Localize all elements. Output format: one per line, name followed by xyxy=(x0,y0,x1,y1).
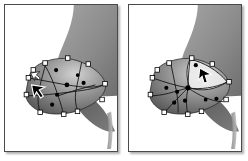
mesh-node-icon[interactable] xyxy=(164,86,168,90)
before-panel[interactable]: before-edit xyxy=(4,4,118,152)
after-panel[interactable]: after-edit xyxy=(128,4,242,152)
mesh-anchor-point-icon[interactable] xyxy=(210,62,215,67)
mesh-node-icon[interactable] xyxy=(55,93,59,97)
mesh-anchor-point-icon[interactable] xyxy=(148,92,153,97)
mesh-node-icon[interactable] xyxy=(65,83,70,88)
mesh-anchor-point-icon[interactable] xyxy=(150,76,155,81)
mesh-node-icon[interactable] xyxy=(50,103,54,107)
mesh-anchor-point-icon[interactable] xyxy=(199,109,204,114)
before-panel-artwork[interactable] xyxy=(5,5,117,151)
mesh-anchor-point-icon[interactable] xyxy=(43,61,48,66)
mesh-anchor-point-icon[interactable] xyxy=(38,110,43,115)
figure-stage: before-edit xyxy=(0,0,248,161)
mesh-anchor-point-icon[interactable] xyxy=(103,81,108,86)
mesh-anchor-point-icon[interactable] xyxy=(189,56,194,61)
mesh-node-icon[interactable] xyxy=(76,73,80,77)
mesh-anchor-point-icon[interactable] xyxy=(31,68,36,73)
mesh-node-icon[interactable] xyxy=(183,99,187,103)
mesh-anchor-point-icon[interactable] xyxy=(86,62,91,67)
after-panel-artwork[interactable] xyxy=(129,5,241,151)
mesh-node-icon[interactable] xyxy=(204,98,208,102)
mesh-node-icon[interactable] xyxy=(172,101,176,105)
mesh-node-icon[interactable] xyxy=(54,68,58,72)
mesh-anchor-point-icon[interactable] xyxy=(227,79,232,84)
mesh-anchor-point-icon[interactable] xyxy=(155,68,160,73)
mesh-node-icon[interactable] xyxy=(175,90,179,94)
mesh-node-icon[interactable] xyxy=(214,97,218,101)
mesh-anchor-point-icon[interactable] xyxy=(162,110,167,115)
mesh-anchor-point-icon[interactable] xyxy=(167,61,172,66)
mesh-anchor-point-icon[interactable] xyxy=(24,92,29,97)
mesh-anchor-point-icon[interactable] xyxy=(61,112,66,117)
mesh-anchor-point-icon[interactable] xyxy=(26,76,31,81)
mesh-anchor-point-icon[interactable] xyxy=(224,97,229,102)
mesh-node-icon[interactable] xyxy=(194,63,198,67)
mesh-node-icon[interactable] xyxy=(185,85,190,90)
mesh-anchor-point-icon[interactable] xyxy=(100,97,105,102)
mesh-anchor-point-icon[interactable] xyxy=(185,112,190,117)
mesh-node-icon[interactable] xyxy=(82,81,86,85)
mesh-anchor-point-icon[interactable] xyxy=(75,109,80,114)
mesh-anchor-point-icon[interactable] xyxy=(65,56,70,61)
